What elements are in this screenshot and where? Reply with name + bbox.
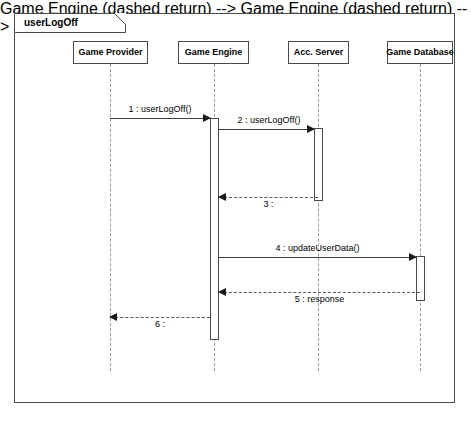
frame-name-label: userLogOff [24, 16, 78, 30]
participant-label-game-engine: Game Engine [185, 47, 243, 58]
participant-label-game-provider: Game Provider [78, 47, 142, 58]
message-2-arrowhead [307, 125, 315, 133]
message-6-label: 6 : [110, 319, 210, 330]
lifeline-acc-server [318, 64, 319, 371]
activation-bar-acc-server[interactable] [314, 128, 323, 201]
message-3-line [219, 197, 318, 198]
message-1-line [110, 118, 210, 119]
lifeline-game-database [420, 64, 421, 371]
message-5-line [219, 292, 420, 293]
message-4-label: 4 : updateUserData() [219, 243, 416, 254]
message-4-arrowhead [409, 253, 417, 261]
message-5-label: 5 : response [219, 294, 420, 305]
message-4-line [219, 257, 416, 258]
participant-label-acc-server: Acc. Server [294, 47, 344, 58]
message-2-line [219, 129, 314, 130]
participant-game-database[interactable]: Game Database [387, 41, 453, 64]
message-2-label: 2 : userLogOff() [219, 115, 319, 126]
message-3-label: 3 : [219, 199, 318, 210]
activation-bar-game-engine[interactable] [210, 118, 219, 340]
message-1-label: 1 : userLogOff() [110, 104, 210, 115]
sequence-diagram-canvas: userLogOff Game Provider Game Engine Acc… [0, 0, 471, 422]
participant-game-engine[interactable]: Game Engine [178, 41, 249, 64]
message-1-arrowhead [203, 114, 211, 122]
frame-name-tab: userLogOff [14, 13, 126, 33]
participant-game-provider[interactable]: Game Provider [73, 41, 148, 64]
message-6-line [110, 317, 210, 318]
participant-label-game-database: Game Database [386, 47, 454, 58]
participant-acc-server[interactable]: Acc. Server [288, 41, 349, 64]
